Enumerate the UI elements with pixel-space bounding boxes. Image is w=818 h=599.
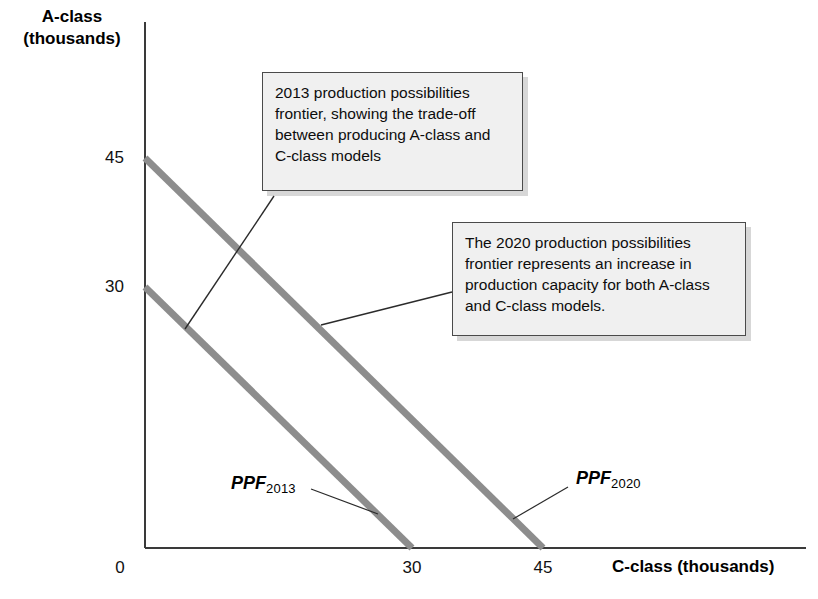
x-tick-label-30: 30 bbox=[392, 558, 432, 578]
x-tick-label-0: 0 bbox=[100, 558, 140, 578]
ppf-2013-label-base: PPF bbox=[231, 473, 266, 493]
ppf-chart-figure: A-class (thousands) C-class (thousands) … bbox=[0, 0, 818, 599]
x-tick-label-45: 45 bbox=[523, 558, 563, 578]
ppf-2013-label-subscript: 2013 bbox=[266, 481, 296, 496]
y-tick-label-45: 45 bbox=[80, 148, 124, 168]
ppf-2020-label: PPF2020 bbox=[576, 468, 641, 491]
ppf-2020-label-base: PPF bbox=[576, 468, 611, 488]
y-axis-title: A-class (thousands) bbox=[8, 6, 136, 50]
ppf-2013-curve bbox=[145, 287, 412, 548]
callout-ppf-2020: The 2020 production possibilities fronti… bbox=[452, 222, 746, 336]
ppf-2013-label: PPF2013 bbox=[231, 473, 296, 496]
y-tick-label-30: 30 bbox=[80, 277, 124, 297]
callout-2013-leader-line bbox=[185, 196, 274, 329]
callout-ppf-2013: 2013 production possibilities frontier, … bbox=[262, 72, 523, 191]
ppf-2020-label-leader-line bbox=[513, 487, 568, 519]
ppf-2020-label-subscript: 2020 bbox=[611, 476, 641, 491]
x-axis-title: C-class (thousands) bbox=[612, 556, 774, 578]
callout-2020-leader-line bbox=[321, 292, 452, 325]
ppf-2020-curve bbox=[145, 158, 543, 548]
